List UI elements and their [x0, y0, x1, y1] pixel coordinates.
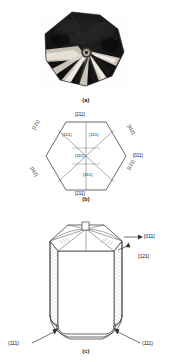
caption-c: (c)	[0, 348, 172, 354]
label-b-right: [011]	[133, 153, 143, 158]
caption-a: (a)	[0, 97, 172, 103]
callout-c-bottom-left: (111)	[8, 340, 19, 346]
callout-c-mid-right: [121]	[138, 253, 149, 259]
sector-label-centre: (111)	[75, 153, 85, 158]
label-b-top: [211]	[75, 112, 85, 117]
micrograph-image	[38, 10, 132, 88]
crystal-morphology-figure: (a) [211] [121]	[0, 0, 172, 362]
caption-b: (b)	[0, 196, 172, 202]
sector-label-lower-centre: (111)	[83, 172, 93, 177]
callout-c-top-right: [011]	[144, 233, 155, 239]
sector-label-upper-left: (111)	[62, 132, 72, 137]
panel-b: [211] [121] [112] [011] [121] [112] [211…	[0, 110, 172, 202]
callout-c-bottom-right: (111)	[142, 340, 153, 346]
panel-a: (a)	[0, 4, 172, 109]
sector-label-upper-right: (111)	[89, 132, 99, 137]
panel-c: [011] [121] (111) (111) (c)	[0, 215, 172, 355]
